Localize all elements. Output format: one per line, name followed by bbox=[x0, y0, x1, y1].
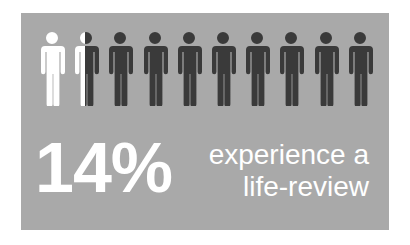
infographic-panel: 14% experience a life-review bbox=[21, 13, 389, 230]
person-icon bbox=[140, 32, 170, 106]
person-icon bbox=[37, 32, 67, 106]
person-icon bbox=[208, 32, 238, 106]
stat-caption: experience a life-review bbox=[209, 139, 369, 203]
person-icon bbox=[71, 32, 101, 106]
person-icon-row bbox=[37, 32, 375, 106]
person-icon bbox=[311, 32, 341, 106]
person-icon bbox=[242, 32, 272, 106]
person-icon bbox=[174, 32, 204, 106]
person-icon bbox=[105, 32, 135, 106]
person-icon bbox=[276, 32, 306, 106]
person-icon bbox=[345, 32, 375, 106]
caption-line-1: experience a bbox=[209, 139, 369, 171]
stat-value: 14% bbox=[35, 133, 172, 203]
caption-line-2: life-review bbox=[209, 171, 369, 203]
